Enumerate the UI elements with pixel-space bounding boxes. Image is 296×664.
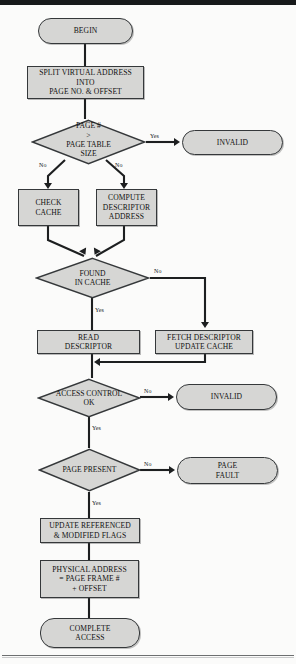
- node-compute-desc-line1: COMPUTE: [108, 193, 145, 202]
- node-read-desc-line1: READ: [78, 333, 99, 342]
- node-physaddr-line3: + OFFSET: [72, 584, 106, 593]
- page-bottom-rule: [2, 655, 294, 656]
- node-fetch-descriptor-update-cache: FETCH DESCRIPTOR UPDATE CACHE: [155, 330, 253, 354]
- node-compute-desc-line2: DESCRIPTOR: [103, 203, 150, 212]
- decision-shape: [35, 257, 150, 299]
- node-page-number-check: PAGE # > PAGE TABLE SIZE: [31, 119, 146, 165]
- arrowhead-access-no: [168, 393, 174, 401]
- edge-label-access-no: No: [144, 388, 152, 394]
- decision-shape: [38, 448, 141, 492]
- node-split-virtual-address: SPLIT VIRTUAL ADDRESS INTO PAGE NO. & OF…: [27, 66, 144, 99]
- arrowhead-to-fetch-desc: [201, 322, 209, 328]
- node-physical-address: PHYSICAL ADDRESS = PAGE FRAME # + OFFSET: [40, 560, 139, 598]
- page-top-bar: [0, 0, 296, 5]
- node-complete-line1: COMPLETE: [70, 624, 111, 633]
- edge-label-found-no: No: [154, 268, 162, 274]
- node-complete-access: COMPLETE ACCESS: [40, 618, 140, 648]
- node-physaddr-line2: = PAGE FRAME #: [59, 574, 119, 583]
- node-complete-line2: ACCESS: [75, 633, 104, 642]
- node-split-line3: PAGE NO. & OFFSET: [49, 87, 122, 96]
- node-read-desc-line2: DESCRIPTOR: [65, 342, 112, 351]
- node-update-flags: UPDATE REFERENCED & MODIFIED FLAGS: [40, 518, 140, 543]
- arrowhead-pagechk-yes: [174, 138, 180, 146]
- arrowhead-present-no: [169, 466, 175, 474]
- node-update-line2: & MODIFIED FLAGS: [54, 531, 126, 540]
- edge-label-access-yes: Yes: [92, 425, 101, 431]
- node-compute-descriptor-address: COMPUTE DESCRIPTOR ADDRESS: [96, 189, 157, 226]
- arrowhead-fetch-desc-join: [94, 358, 100, 366]
- node-read-descriptor: READ DESCRIPTOR: [37, 330, 140, 354]
- edge-label-pagechk-yes: Yes: [150, 133, 159, 139]
- node-fetch-desc-line1: FETCH DESCRIPTOR: [167, 333, 241, 342]
- edge-label-found-yes: Yes: [95, 307, 104, 313]
- node-check-cache: CHECK CACHE: [18, 189, 79, 226]
- node-physaddr-line1: PHYSICAL ADDRESS: [52, 565, 127, 574]
- node-page-fault-line2: FAULT: [216, 471, 240, 480]
- flowchart-figure: Yes No No No Yes No Yes No Yes BEGIN SPL…: [0, 0, 296, 664]
- node-access-control-ok: ACCESS CONTROL OK: [37, 378, 141, 418]
- arrowhead-check-cache-to-found: [79, 247, 89, 256]
- node-fetch-desc-line2: UPDATE CACHE: [175, 342, 233, 351]
- node-begin: BEGIN: [38, 18, 133, 44]
- node-found-in-cache: FOUND IN CACHE: [35, 257, 150, 299]
- node-compute-desc-line3: ADDRESS: [109, 212, 144, 221]
- node-invalid-1-label: INVALID: [217, 138, 248, 147]
- node-check-cache-line2: CACHE: [35, 208, 61, 217]
- node-invalid-1: INVALID: [182, 130, 283, 155]
- node-begin-label: BEGIN: [74, 26, 98, 35]
- page-bottom-rule-shadow: [2, 657, 294, 658]
- node-check-cache-line1: CHECK: [35, 198, 61, 207]
- node-page-fault: PAGE FAULT: [177, 457, 278, 484]
- edge-label-present-no: No: [144, 461, 152, 467]
- node-update-line1: UPDATE REFERENCED: [49, 521, 131, 530]
- decision-shape: [31, 119, 146, 165]
- node-invalid-2: INVALID: [176, 384, 277, 410]
- decision-shape: [37, 378, 141, 418]
- node-split-line1: SPLIT VIRTUAL ADDRESS: [39, 68, 132, 77]
- edge-label-present-yes: Yes: [92, 500, 101, 506]
- node-split-line2: INTO: [76, 78, 94, 87]
- arrowhead-compute-desc-to-found: [91, 247, 101, 256]
- node-page-present: PAGE PRESENT: [38, 448, 141, 492]
- node-page-fault-line1: PAGE: [218, 461, 238, 470]
- node-invalid-2-label: INVALID: [211, 392, 242, 401]
